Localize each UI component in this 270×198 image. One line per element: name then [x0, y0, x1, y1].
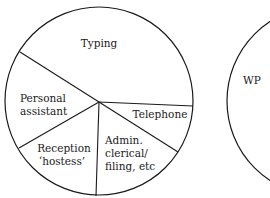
segment-label-personal-line1: Personal [20, 92, 67, 104]
segment-label-wp: WP [243, 74, 261, 86]
segment-label-admin-line1: Admin. [104, 134, 143, 146]
segment-label-personal-line2: assistant [20, 105, 68, 117]
segment-label-telephone: Telephone [133, 108, 188, 120]
pie-outline-right [227, 6, 270, 196]
segment-label-admin-line3: filing, etc [105, 160, 155, 172]
segment-label-reception-line1: Reception [37, 142, 91, 154]
pie-diagram: Typing Telephone Admin. clerical/ filing… [0, 0, 270, 198]
segment-label-admin-line2: clerical/ [105, 147, 148, 159]
segment-label-typing: Typing [81, 37, 118, 49]
segment-label-reception-line2: ‘hostess’ [39, 155, 85, 167]
pie-chart-wp: WP [227, 6, 270, 196]
pie-chart-office-tasks: Typing Telephone Admin. clerical/ filing… [5, 7, 193, 196]
